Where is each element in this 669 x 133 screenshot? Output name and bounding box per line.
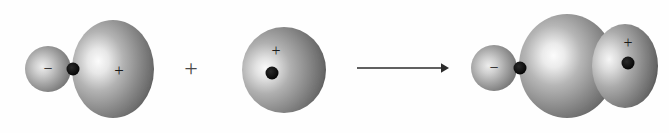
s-orbital-sign: +	[271, 42, 280, 59]
sp-small-lobe: −	[25, 46, 71, 92]
sp-large-lobe: +	[72, 20, 154, 118]
reactant-two-s-orbital: +	[242, 27, 326, 113]
diagram-canvas: − + + +	[0, 0, 669, 133]
reaction-arrow	[357, 63, 449, 73]
product-right-nucleus-dot	[622, 57, 635, 70]
sp-small-lobe-sign: −	[43, 60, 52, 77]
sp-large-lobe-shape	[72, 20, 154, 118]
product-right-lobe-sign: +	[623, 34, 632, 51]
reaction-arrow-head	[441, 63, 449, 73]
product-left-nucleus-dot	[514, 62, 527, 75]
sp-large-lobe-sign: +	[114, 61, 124, 80]
s-orbital-sphere-shape	[242, 27, 326, 113]
operator-plus-sign: +	[184, 55, 198, 81]
sp-orbital-nucleus-dot	[67, 63, 80, 76]
s-orbital-nucleus-dot	[266, 67, 279, 80]
orbital-overlap-figure: − + + +	[0, 0, 669, 133]
reactant-one-sp-orbital: − +	[25, 20, 154, 118]
product-small-lobe: −	[471, 45, 517, 91]
product-bonding-mo: + −	[471, 14, 658, 118]
product-right-lobe: +	[592, 24, 658, 108]
product-small-lobe-sign: −	[489, 59, 498, 76]
